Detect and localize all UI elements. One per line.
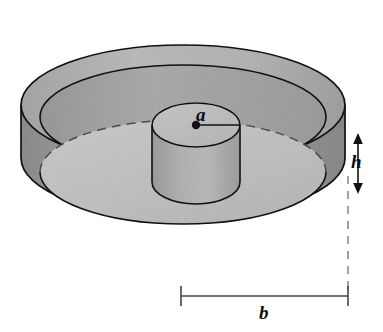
label-height-h: h xyxy=(351,152,362,171)
height-h-arrowhead-up xyxy=(353,133,363,144)
disk-diagram-svg xyxy=(0,0,383,332)
figure-container: a h b xyxy=(0,0,383,332)
height-h-arrowhead-down xyxy=(353,183,363,194)
label-radius-a: a xyxy=(196,105,206,124)
label-radius-b: b xyxy=(259,303,269,322)
